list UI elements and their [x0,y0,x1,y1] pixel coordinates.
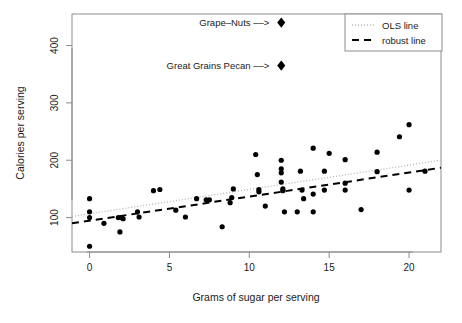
data-point [207,197,212,202]
data-point [343,187,348,192]
data-point [279,158,284,163]
data-point [117,229,122,234]
y-tick-label: 400 [50,37,61,54]
data-point [280,188,285,193]
data-point [157,187,162,192]
data-point [87,196,92,201]
data-point [282,209,287,214]
data-point [375,169,380,174]
data-point [194,196,199,201]
data-point [311,209,316,214]
legend: OLS line robust line [345,14,442,51]
x-tick-label: 5 [167,262,173,273]
data-point [406,122,411,127]
data-point [256,189,261,194]
data-point [220,224,225,229]
data-point [253,152,258,157]
data-point [397,134,402,139]
y-tick-label: 100 [50,209,61,226]
data-point [183,214,188,219]
annotation-grape-nuts: Grape–Nuts ––> [199,17,269,28]
data-point [87,244,92,249]
data-point [255,172,260,177]
data-point [279,170,284,175]
y-axis-ticks: 100200300400 [50,37,73,226]
data-point [322,187,327,192]
data-point [173,208,178,213]
data-point [322,169,327,174]
data-point [359,207,364,212]
data-point [279,179,284,184]
plot-canvas: Grape–Nuts ––> Great Grains Pecan ––> 05… [0,0,462,323]
x-tick-label: 0 [87,262,93,273]
y-axis-title: Calories per serving [14,86,26,180]
y-tick-label: 200 [50,151,61,168]
legend-label-ols: OLS line [382,20,418,31]
data-point [311,191,316,196]
data-point [327,151,332,156]
data-point [136,214,141,219]
data-point [228,200,233,205]
x-axis-title: Grams of sugar per serving [192,291,319,303]
x-axis: 05101520 Grams of sugar per serving [87,252,415,303]
x-axis-ticks: 05101520 [87,252,415,273]
x-tick-label: 10 [244,262,256,273]
data-point [375,150,380,155]
data-point [311,146,316,151]
data-point [298,169,303,174]
data-point [229,195,234,200]
y-tick-label: 300 [50,94,61,111]
legend-label-robust: robust line [382,35,426,46]
y-axis: 100200300400 Calories per serving [14,37,72,226]
data-point [422,169,427,174]
data-point [121,216,126,221]
data-point [87,209,92,214]
data-point [299,187,304,192]
data-point [343,181,348,186]
data-point [135,209,140,214]
data-point [406,187,411,192]
data-point [87,215,92,220]
data-point [101,221,106,226]
data-point [263,204,268,209]
data-point [301,196,306,201]
x-tick-label: 20 [403,262,415,273]
annotation-great-grains-pecan: Great Grains Pecan ––> [167,60,270,71]
data-point [151,188,156,193]
x-tick-label: 15 [324,262,336,273]
data-point [343,157,348,162]
data-point [231,186,236,191]
scatter-plot-figure: Grape–Nuts ––> Great Grains Pecan ––> 05… [0,0,462,323]
data-point [295,209,300,214]
